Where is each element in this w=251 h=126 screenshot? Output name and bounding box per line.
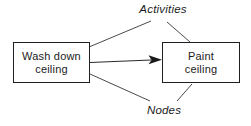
node-label-line: Wash down	[22, 50, 81, 63]
activities-leader-left-line	[89, 21, 151, 47]
node-paint-ceiling: Paint ceiling	[162, 42, 240, 83]
activities-annotation: Activities	[131, 3, 195, 15]
diagram-canvas: Wash down ceiling Paint ceiling Activiti…	[0, 0, 251, 126]
nodes-leader-right-line	[177, 84, 192, 101]
nodes-leader-left-line	[90, 74, 150, 101]
activities-leader-right-line	[167, 22, 190, 42]
node-label-line: ceiling	[185, 63, 218, 76]
node-wash-down-ceiling: Wash down ceiling	[13, 42, 90, 83]
nodes-annotation: Nodes	[136, 104, 192, 116]
node-label-line: ceiling	[35, 63, 68, 76]
node-label-line: Paint	[188, 50, 214, 63]
precedence-arrow-shaft	[90, 60, 151, 63]
